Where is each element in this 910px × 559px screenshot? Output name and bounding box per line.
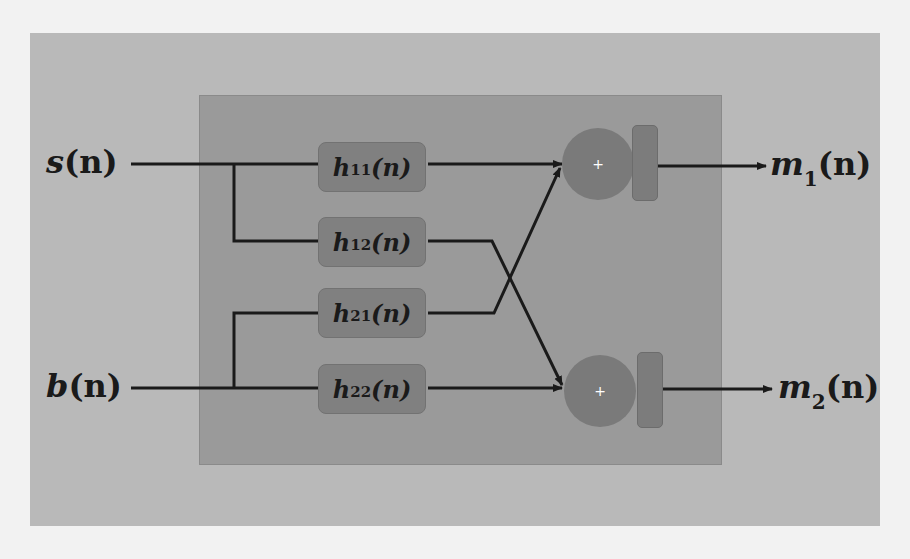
- plus-icon: +: [592, 156, 604, 172]
- plus-icon: +: [594, 383, 606, 399]
- input-b-label: b(n): [46, 370, 122, 402]
- output-m2-label: m2(n): [778, 371, 879, 408]
- output-block-1: [632, 125, 658, 201]
- filter-h12: h12(n): [318, 217, 426, 267]
- signal-wires: [0, 0, 910, 559]
- output-m1-label: m1(n): [770, 148, 871, 185]
- input-s-label: s(n): [46, 146, 118, 178]
- filter-h21: h21(n): [318, 288, 426, 338]
- output-block-2: [637, 352, 663, 428]
- filter-h11: h11(n): [318, 142, 426, 192]
- summing-junction-2: +: [564, 355, 636, 427]
- summing-junction-1: +: [562, 128, 634, 200]
- filter-h22: h22(n): [318, 364, 426, 414]
